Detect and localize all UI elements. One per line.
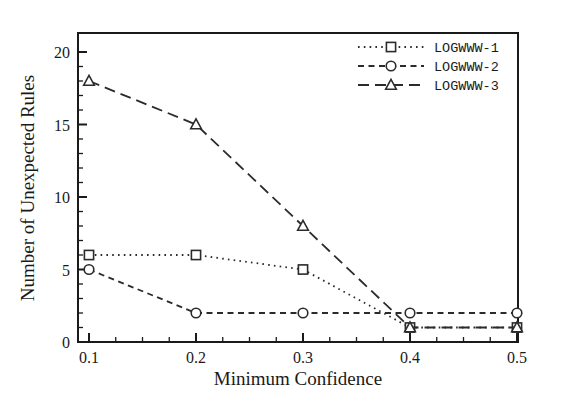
data-point-marker: [298, 265, 307, 274]
data-point-marker: [298, 308, 308, 318]
legend-label: LOGWWW-2: [434, 60, 499, 75]
data-point-marker: [84, 75, 95, 85]
data-point-marker: [191, 308, 201, 318]
chart-legend: LOGWWW-1LOGWWW-2LOGWWW-3: [358, 41, 499, 94]
line-chart: 05101520 0.10.20.30.40.5 LOGWWW-1LOGWWW-…: [0, 0, 561, 401]
y-tick-label: 5: [62, 262, 70, 279]
y-tick-label: 15: [54, 117, 70, 134]
data-point-marker: [84, 265, 94, 275]
data-point-marker: [191, 250, 200, 259]
x-tick-label: 0.2: [186, 349, 206, 366]
y-tick-label: 0: [62, 334, 70, 351]
legend-entry-logwww-1: LOGWWW-1: [358, 41, 499, 56]
x-axis-title: Minimum Confidence: [214, 368, 382, 389]
legend-marker: [386, 61, 396, 71]
x-tick-label: 0.5: [507, 349, 527, 366]
x-axis-ticks: [89, 333, 517, 342]
series-layer: [84, 75, 523, 332]
y-axis-title: Number of Unexpected Rules: [17, 75, 38, 301]
x-tick-label: 0.4: [400, 349, 420, 366]
x-tick-label: 0.1: [79, 349, 99, 366]
series-line: [89, 270, 517, 314]
y-tick-label: 20: [54, 44, 70, 61]
data-point-marker: [84, 250, 93, 259]
legend-marker: [386, 42, 395, 51]
legend-label: LOGWWW-1: [434, 41, 499, 56]
data-point-marker: [405, 308, 415, 318]
y-axis-tick-labels: 05101520: [54, 44, 70, 351]
legend-label: LOGWWW-3: [434, 79, 499, 94]
data-point-marker: [512, 308, 522, 318]
chart-page: 05101520 0.10.20.30.40.5 LOGWWW-1LOGWWW-…: [0, 0, 561, 401]
x-axis-tick-labels: 0.10.20.30.40.5: [79, 349, 527, 366]
y-axis-ticks: [78, 52, 87, 342]
legend-entry-logwww-2: LOGWWW-2: [358, 60, 499, 75]
x-tick-label: 0.3: [293, 349, 313, 366]
y-tick-label: 10: [54, 189, 70, 206]
legend-entry-logwww-3: LOGWWW-3: [358, 79, 499, 94]
series-logwww-1: [84, 250, 521, 332]
series-line: [89, 81, 517, 328]
